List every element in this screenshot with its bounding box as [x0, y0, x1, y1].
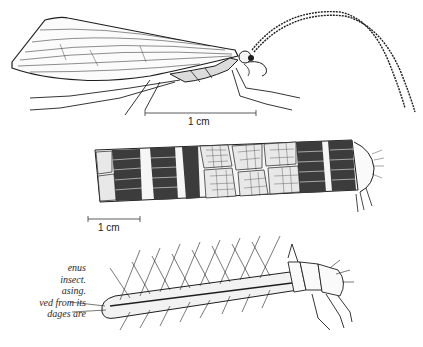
caption-line: enus — [0, 262, 86, 274]
larva-illustration — [70, 236, 354, 330]
caption-line: dages are — [0, 308, 86, 320]
scale-bar-adult-label: 1 cm — [188, 116, 210, 127]
caddisfly-figure: 1 cm 1 cm enus insect. asing. ved from i… — [0, 0, 423, 347]
caption-line: ved from its — [0, 297, 86, 309]
larval-case-illustration — [95, 140, 384, 212]
adult-insect-illustration — [12, 12, 415, 115]
caption-line: insect. — [0, 274, 86, 286]
figure-caption: enus insect. asing. ved from its dages a… — [0, 262, 86, 320]
caption-line: asing. — [0, 285, 86, 297]
scale-bar-case-label: 1 cm — [98, 222, 120, 233]
